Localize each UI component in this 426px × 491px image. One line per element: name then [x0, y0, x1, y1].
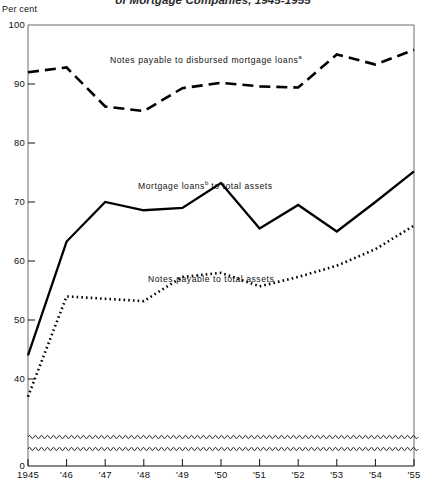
- series-label-notes-to-total-assets: Notes payable to total assets: [148, 274, 274, 284]
- plot-canvas: [0, 0, 426, 491]
- y-tick-label: 80: [0, 138, 25, 147]
- x-tick-label: '46: [45, 470, 89, 480]
- x-tick-label: '55: [392, 470, 426, 480]
- x-tick-label: 1945: [6, 470, 50, 480]
- x-tick-label: '49: [160, 470, 204, 480]
- series-label-mortgage-loans-to-assets: Mortgage loansb to total assets: [138, 179, 273, 191]
- series-label-notes-to-disbursed-loans: Notes payable to disbursed mortgage loan…: [110, 53, 302, 65]
- y-tick-label: 40: [0, 374, 25, 383]
- x-tick-label: '52: [276, 470, 320, 480]
- x-tick-label: '47: [83, 470, 127, 480]
- chart-figure: of Mortgage Companies, 1945-1955 Per cen…: [0, 0, 426, 491]
- y-tick-label: 50: [0, 315, 25, 324]
- x-tick-label: '51: [238, 470, 282, 480]
- y-tick-label: 90: [0, 79, 25, 88]
- x-tick-label: '53: [315, 470, 359, 480]
- x-tick-label: '54: [353, 470, 397, 480]
- y-tick-label: 100: [0, 20, 25, 29]
- x-tick-label: '50: [199, 470, 243, 480]
- x-tick-label: '48: [122, 470, 166, 480]
- y-tick-label: 70: [0, 197, 25, 206]
- y-tick-label: 60: [0, 256, 25, 265]
